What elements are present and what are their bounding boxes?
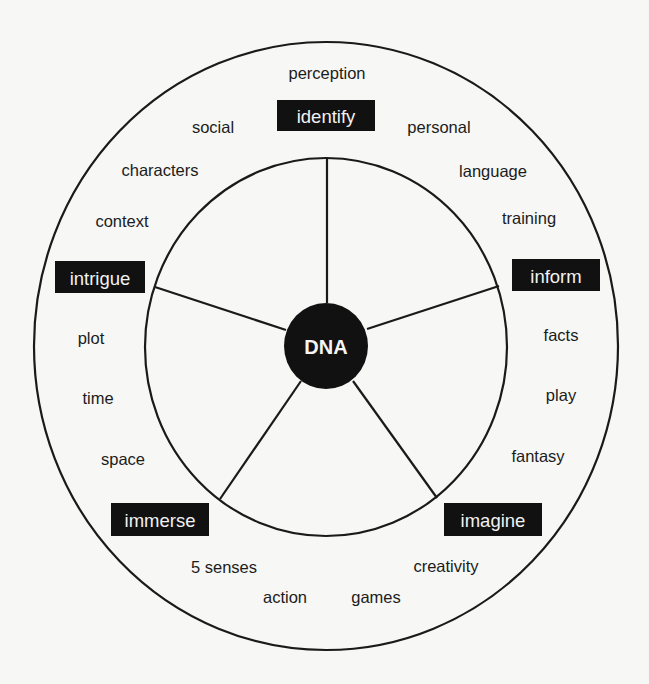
term-characters: characters xyxy=(121,161,198,179)
term-social: social xyxy=(192,118,234,136)
dna-label: DNA xyxy=(304,336,347,358)
term-perception: perception xyxy=(288,64,365,82)
term-5-senses: 5 senses xyxy=(191,558,257,576)
category-immerse: immerse xyxy=(111,503,209,536)
spoke-line xyxy=(155,287,286,330)
term-action: action xyxy=(263,588,307,606)
category-inform: inform xyxy=(512,259,600,291)
term-facts: facts xyxy=(544,326,579,344)
term-plot: plot xyxy=(78,329,105,347)
term-play: play xyxy=(546,386,577,404)
term-language: language xyxy=(459,162,527,180)
category-label: immerse xyxy=(125,510,196,531)
category-identify: identify xyxy=(277,100,375,131)
category-label: intrigue xyxy=(70,268,131,289)
category-label: imagine xyxy=(461,510,526,531)
category-imagine: imagine xyxy=(444,503,542,536)
term-context: context xyxy=(95,212,149,230)
dna-wheel-diagram: DNA identifyinformimagineimmerseintrigue… xyxy=(0,0,649,684)
category-label: inform xyxy=(530,266,581,287)
center-node: DNA xyxy=(284,303,368,389)
term-training: training xyxy=(502,209,556,227)
term-creativity: creativity xyxy=(413,557,479,575)
term-fantasy: fantasy xyxy=(511,447,565,465)
spoke-line xyxy=(220,381,301,499)
spoke-line xyxy=(367,286,499,329)
category-intrigue: intrigue xyxy=(55,261,145,293)
term-personal: personal xyxy=(407,118,470,136)
spoke-line xyxy=(353,381,437,498)
term-space: space xyxy=(101,450,145,468)
term-games: games xyxy=(351,588,401,606)
term-time: time xyxy=(82,389,113,407)
category-label: identify xyxy=(297,106,356,127)
